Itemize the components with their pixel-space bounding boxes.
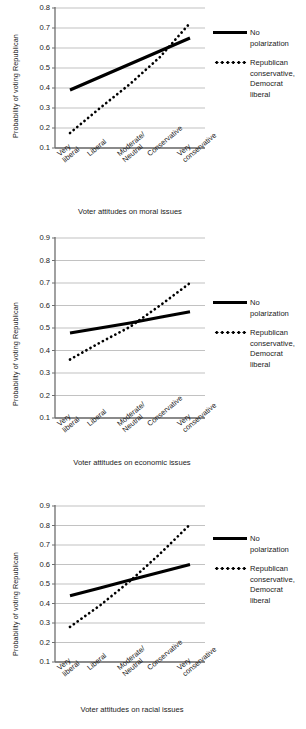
y-axis-tick-label: 0.5 bbox=[28, 64, 50, 72]
dotted-line-key-icon bbox=[213, 58, 247, 68]
y-axis-tick-label: 0.6 bbox=[28, 302, 50, 310]
plot-area-economic-issues: Probability of voting Republican No pola… bbox=[0, 228, 306, 478]
y-axis-tick-label: 0.2 bbox=[28, 392, 50, 400]
legend-item-no-polarization: No polarization bbox=[213, 298, 289, 319]
dotted-line-key-icon bbox=[213, 564, 247, 574]
legend-label-no-polarization: No polarization bbox=[250, 28, 289, 49]
legend-item-no-polarization: No polarization bbox=[213, 28, 289, 49]
x-axis-title: Voter attitudes on economic issues bbox=[42, 458, 222, 467]
y-axis-tick-label: 0.7 bbox=[28, 24, 50, 32]
legend-item-polarization: Republican conservative, Democrat libera… bbox=[213, 328, 295, 370]
legend-label-polarization: Republican conservative, Democrat libera… bbox=[250, 328, 295, 370]
legend-label-polarization: Republican conservative, Democrat libera… bbox=[250, 58, 295, 100]
y-axis-tick-label: 0.4 bbox=[28, 600, 50, 608]
solid-line-key-icon bbox=[213, 298, 247, 308]
y-axis-tick-label: 0.1 bbox=[28, 658, 50, 666]
y-axis-tick-label: 0.5 bbox=[28, 580, 50, 588]
y-axis-tick-label: 0.8 bbox=[28, 4, 50, 12]
legend-item-polarization: Republican conservative, Democrat libera… bbox=[213, 564, 295, 606]
chart-panel-moral-issues: Probability of voting Republican No pola… bbox=[0, 0, 306, 245]
y-axis-tick-label: 0.2 bbox=[28, 124, 50, 132]
y-axis-tick-label: 0.3 bbox=[28, 369, 50, 377]
y-axis-title: Probability of voting Republican bbox=[11, 34, 20, 138]
y-axis-tick-label: 0.1 bbox=[28, 414, 50, 422]
y-axis-tick-label: 0.8 bbox=[28, 257, 50, 265]
dotted-line-key-icon bbox=[213, 328, 247, 338]
legend-item-no-polarization: No polarization bbox=[213, 534, 289, 555]
y-axis-tick-label: 0.3 bbox=[28, 619, 50, 627]
y-axis-tick-label: 0.6 bbox=[28, 44, 50, 52]
legend-item-polarization: Republican conservative, Democrat libera… bbox=[213, 58, 295, 100]
x-axis-title: Voter attitudes on racial issues bbox=[42, 705, 222, 714]
plot-area-moral-issues: Probability of voting Republican No pola… bbox=[0, 0, 306, 245]
legend-label-polarization: Republican conservative, Democrat libera… bbox=[250, 564, 295, 606]
solid-line-key-icon bbox=[213, 534, 247, 544]
y-axis-tick-label: 0.4 bbox=[28, 347, 50, 355]
y-axis-tick-label: 0.5 bbox=[28, 324, 50, 332]
y-axis-tick-label: 0.9 bbox=[28, 502, 50, 510]
y-axis-title: Probability of voting Republican bbox=[11, 302, 20, 406]
y-axis-tick-label: 0.9 bbox=[28, 234, 50, 242]
chart-panel-economic-issues: Probability of voting Republican No pola… bbox=[0, 228, 306, 478]
y-axis-tick-label: 0.3 bbox=[28, 104, 50, 112]
y-axis-tick-label: 0.6 bbox=[28, 561, 50, 569]
solid-line-key-icon bbox=[213, 28, 247, 38]
y-axis-tick-label: 0.7 bbox=[28, 541, 50, 549]
y-axis-tick-label: 0.4 bbox=[28, 84, 50, 92]
plot-area-racial-issues: Probability of voting Republican No pola… bbox=[0, 478, 306, 729]
y-axis-title: Probability of voting Republican bbox=[11, 552, 20, 656]
legend-label-no-polarization: No polarization bbox=[250, 534, 289, 555]
x-axis-title: Voter attitudes on moral issues bbox=[45, 207, 215, 216]
legend-label-no-polarization: No polarization bbox=[250, 298, 289, 319]
y-axis-tick-label: 0.1 bbox=[28, 144, 50, 152]
y-axis-tick-label: 0.2 bbox=[28, 639, 50, 647]
chart-panel-racial-issues: Probability of voting Republican No pola… bbox=[0, 478, 306, 729]
y-axis-tick-label: 0.8 bbox=[28, 522, 50, 530]
y-axis-tick-label: 0.7 bbox=[28, 279, 50, 287]
